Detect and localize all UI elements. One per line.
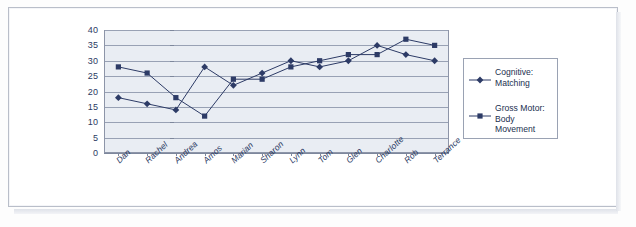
data-point-diamond [259,70,266,77]
series-line [118,39,434,116]
data-point-square [346,52,351,57]
data-point-square [317,58,322,63]
legend-marker-square-icon [468,107,492,117]
y-axis-tick-label: 10 [88,117,98,127]
legend-label: Cognitive: Matching [495,67,533,88]
data-point-diamond [316,64,323,71]
data-point-diamond [374,42,381,49]
y-axis-tick-label: 5 [93,133,98,143]
data-point-diamond [172,107,179,114]
data-point-square [260,77,265,82]
y-axis-tick-label: 40 [88,25,98,35]
chart-legend: Cognitive: MatchingGross Motor: Body Mov… [463,58,558,139]
series-line [118,45,434,110]
y-axis-tick-label: 0 [93,148,98,158]
y-axis-tick-label: 20 [88,87,98,97]
page-bottom-edge [14,209,618,214]
data-point-diamond [144,100,151,107]
data-point-diamond [431,57,438,64]
y-axis-tick-label: 25 [88,71,98,81]
data-point-square [477,113,482,118]
scanned-page-frame: 4035302520151050 Cognitive: MatchingGros… [0,0,636,227]
data-point-square [231,77,236,82]
data-point-square [288,64,293,69]
y-axis-tick-label: 15 [88,102,98,112]
y-axis-tick-label: 30 [88,56,98,66]
data-point-square [432,43,437,48]
data-point-square [173,95,178,100]
data-point-diamond [345,57,352,64]
legend-label: Gross Motor: Body Movement [495,103,545,135]
data-point-square [145,70,150,75]
data-point-diamond [402,51,409,58]
legend-marker-diamond-icon [468,71,492,81]
page-right-edge [616,12,621,211]
line-chart: 4035302520151050 Cognitive: MatchingGros… [8,7,616,205]
data-point-diamond [115,94,122,101]
y-axis-tick-label: 35 [88,40,98,50]
data-point-diamond [477,77,484,84]
data-point-square [202,114,207,119]
y-axis: 4035302520151050 [78,23,102,160]
data-point-square [403,37,408,42]
data-point-diamond [201,64,208,71]
data-point-square [116,64,121,69]
data-point-square [375,52,380,57]
data-point-diamond [287,57,294,64]
